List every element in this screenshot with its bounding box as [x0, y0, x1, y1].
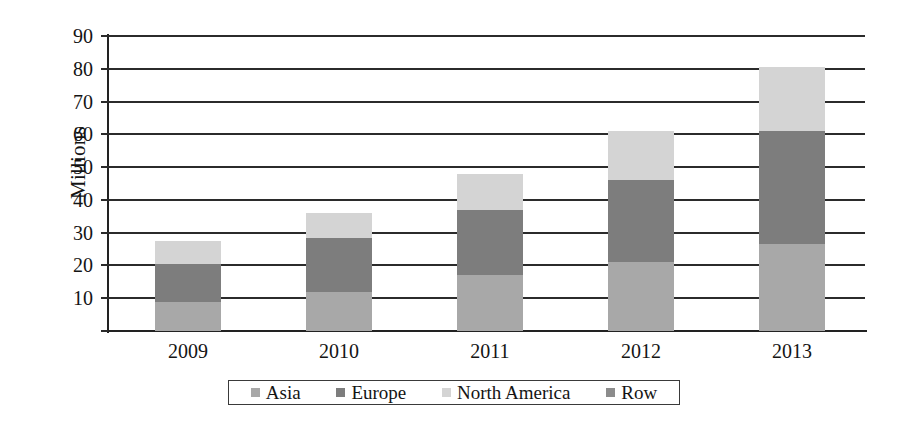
- legend-label: Europe: [351, 383, 406, 402]
- bar-segment: [608, 180, 674, 262]
- y-tick-label: 10: [39, 288, 93, 308]
- x-tick-label: 2013: [732, 340, 852, 362]
- legend-label: Asia: [266, 383, 301, 402]
- legend-label: Row: [621, 383, 657, 402]
- y-tick-label: 80: [39, 59, 93, 79]
- stacked-bar-chart: Millions 102030405060708090 200920102011…: [0, 0, 904, 427]
- bar-segment: [608, 262, 674, 331]
- gridline: [107, 166, 865, 168]
- legend-swatch-icon: [251, 388, 260, 397]
- legend-item-row[interactable]: Row: [606, 383, 657, 402]
- bar-segment: [155, 302, 221, 332]
- gridline: [107, 133, 865, 135]
- legend-swatch-icon: [606, 388, 615, 397]
- gridline: [107, 68, 865, 70]
- legend-swatch-icon: [442, 388, 451, 397]
- bar-segment: [759, 67, 825, 131]
- y-tick-label: 20: [39, 255, 93, 275]
- bar-segment: [306, 292, 372, 331]
- legend-swatch-icon: [336, 388, 345, 397]
- plot-area: [107, 36, 865, 331]
- y-tick-label: 90: [39, 26, 93, 46]
- bar-segment: [155, 264, 221, 302]
- y-tick-label: 50: [39, 157, 93, 177]
- bar-segment: [759, 244, 825, 331]
- x-tick-label: 2009: [128, 340, 248, 362]
- bar-segment: [608, 131, 674, 180]
- bar-segment: [457, 210, 523, 276]
- gridline: [107, 101, 865, 103]
- y-tick-label: 30: [39, 223, 93, 243]
- y-tick-label: 70: [39, 92, 93, 112]
- y-tick-label: 40: [39, 190, 93, 210]
- x-tick-label: 2012: [581, 340, 701, 362]
- y-tick-label: 60: [39, 124, 93, 144]
- x-tick-label: 2010: [279, 340, 399, 362]
- bar-segment: [759, 131, 825, 244]
- bar-segment: [457, 275, 523, 331]
- legend-item-north-america[interactable]: North America: [442, 383, 570, 402]
- bar-segment: [306, 238, 372, 292]
- legend-item-asia[interactable]: Asia: [251, 383, 301, 402]
- bar-segment: [155, 241, 221, 264]
- chart-legend: AsiaEuropeNorth AmericaRow: [228, 380, 680, 405]
- legend-item-europe[interactable]: Europe: [336, 383, 406, 402]
- x-tick-label: 2011: [430, 340, 550, 362]
- legend-label: North America: [457, 383, 570, 402]
- gridline: [107, 35, 865, 37]
- bar-segment: [306, 213, 372, 238]
- bar-segment: [457, 174, 523, 210]
